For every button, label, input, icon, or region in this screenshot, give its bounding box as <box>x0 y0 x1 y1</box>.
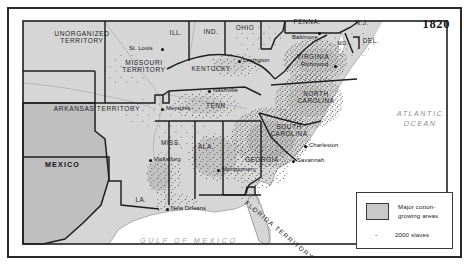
city-dot-st-louis <box>161 48 164 51</box>
map-date-label: 1820 <box>423 17 450 32</box>
legend-row-cotton: Major cotton-growing areas <box>366 203 438 220</box>
city-dot-baltimore <box>318 32 321 35</box>
territory-label-unorganized-territory: UNORGANIZEDTERRITORY <box>34 31 130 45</box>
city-label-lexington: Lexington <box>243 57 269 63</box>
city-dot-montgomery <box>217 169 220 172</box>
legend-label-cotton: Major cotton-growing areas <box>398 203 438 219</box>
state-label-virginia: VIRGINIA <box>289 54 337 61</box>
legend-row-slaves: · 2000 slaves <box>366 231 429 238</box>
state-label-alabama: ALA. <box>195 144 217 151</box>
city-label-montgomery: Montgomery <box>222 166 256 172</box>
state-label-south-carolina: SOUTHCAROLINA <box>265 124 313 137</box>
cotton-and-slavery-map-figure: 1820 MEXICO UNORGANIZEDTERRITORY MISSOUR… <box>0 0 469 271</box>
state-label-indiana: IND. <box>200 29 222 36</box>
city-label-richmond: Richmond <box>301 61 328 67</box>
state-label-new-jersey: N.J. <box>353 20 371 27</box>
ocean-label-gulf-of-mexico: GULF OF MEXICO <box>140 237 238 245</box>
city-dot-nashville <box>208 90 211 93</box>
state-label-mississippi: MISS. <box>159 140 183 147</box>
city-dot-lexington <box>238 60 241 63</box>
city-dot-new-orleans <box>166 208 169 211</box>
city-label-nashville: Nashville <box>213 87 238 93</box>
city-dot-charleston <box>304 145 307 148</box>
map-legend: Major cotton-growing areas · 2000 slaves <box>356 192 453 249</box>
territory-label-arkansas-territory: ARKANSAS TERRITORY <box>39 106 155 113</box>
state-label-illinois: ILL. <box>165 30 187 37</box>
state-label-georgia: GEORGIA <box>239 157 285 164</box>
city-label-st-louis: St. Louis <box>129 45 153 51</box>
legend-dot-icon: · <box>366 232 386 238</box>
state-label-maryland: MD. <box>335 41 351 47</box>
city-label-charleston: Charleston <box>309 142 339 148</box>
state-label-north-carolina: NORTHCAROLINA <box>292 91 340 104</box>
legend-swatch-cotton-icon <box>366 203 389 220</box>
city-label-memphis: Memphis <box>166 105 191 111</box>
country-label-mexico: MEXICO <box>45 161 80 169</box>
state-label-ohio: OHIO <box>231 25 259 32</box>
state-label-louisiana: LA. <box>133 197 149 204</box>
city-label-new-orleans: New Orleans <box>171 205 206 211</box>
state-label-tennessee: TENN. <box>203 103 231 110</box>
city-dot-vicksburg <box>149 159 152 162</box>
state-label-kentucky: KENTUCKY <box>185 66 237 73</box>
city-dot-savannah <box>292 160 295 163</box>
state-label-delaware: DEL. <box>361 38 381 45</box>
city-label-baltimore: Baltimore <box>292 34 318 40</box>
legend-label-slaves: 2000 slaves <box>395 231 429 238</box>
city-dot-memphis <box>161 108 164 111</box>
city-label-vicksburg: Vicksburg <box>154 156 181 162</box>
city-dot-richmond <box>334 65 337 68</box>
territory-label-missouri-territory: MISSOURITERRITORY <box>107 60 181 74</box>
map-frame: 1820 MEXICO UNORGANIZEDTERRITORY MISSOUR… <box>7 7 462 258</box>
state-label-pennsylvania: PENNA. <box>289 19 325 26</box>
city-label-savannah: Savannah <box>297 157 324 163</box>
ocean-label-atlantic: ATLANTICOCEAN <box>387 109 453 128</box>
